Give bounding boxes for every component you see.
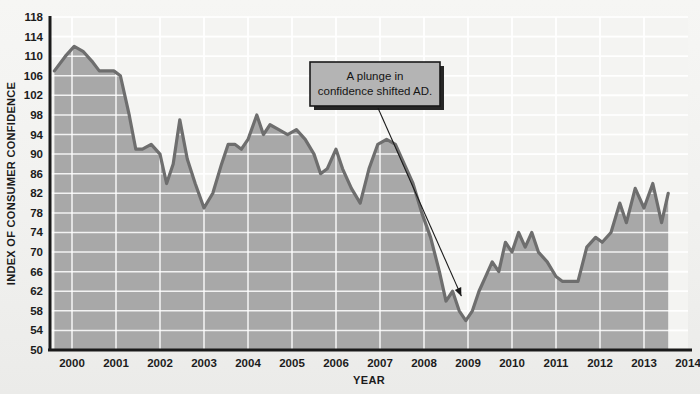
x-tick-label: 2007 (367, 357, 393, 369)
y-tick-label: 90 (30, 148, 43, 160)
x-tick-label: 2011 (544, 357, 570, 369)
consumer-confidence-chart: 5054586266707478828690949810210611011411… (0, 0, 700, 394)
y-tick-label: 106 (24, 70, 43, 82)
annotation-box (310, 62, 440, 106)
y-tick-label: 70 (30, 246, 43, 258)
y-axis-title: INDEX OF CONSUMER CONFIDENCE (5, 82, 17, 285)
y-tick-label: 78 (30, 207, 43, 219)
y-tick-label: 54 (30, 324, 43, 336)
x-tick-label: 2008 (411, 357, 437, 369)
x-axis-title: YEAR (353, 374, 385, 386)
y-axis-ticks: 5054586266707478828690949810210611011411… (24, 11, 44, 356)
annotation-line-2: confidence shifted AD. (318, 85, 432, 97)
y-tick-label: 114 (24, 31, 43, 43)
x-tick-label: 2010 (499, 357, 525, 369)
y-tick-label: 98 (30, 109, 43, 121)
x-tick-label: 2001 (103, 357, 129, 369)
chart-container: 5054586266707478828690949810210611011411… (0, 0, 700, 394)
x-tick-label: 2012 (587, 357, 613, 369)
y-tick-label: 86 (30, 168, 43, 180)
x-tick-label: 2004 (235, 357, 261, 369)
y-tick-label: 118 (24, 11, 43, 23)
x-tick-label: 2002 (147, 357, 173, 369)
y-tick-label: 110 (24, 50, 43, 62)
x-tick-label: 2003 (191, 357, 217, 369)
x-tick-label: 2009 (455, 357, 481, 369)
y-tick-label: 102 (24, 89, 43, 101)
x-tick-label: 2013 (631, 357, 657, 369)
x-tick-label: 2014 (675, 357, 700, 369)
y-tick-label: 94 (30, 129, 43, 141)
y-tick-label: 74 (30, 226, 43, 238)
y-tick-label: 50 (30, 344, 43, 356)
y-tick-label: 58 (30, 305, 43, 317)
y-tick-label: 62 (30, 285, 43, 297)
x-tick-label: 2000 (59, 357, 85, 369)
x-axis-ticks: 2000200120022003200420052006200720082009… (59, 357, 700, 369)
x-tick-label: 2006 (323, 357, 349, 369)
annotation-line-1: A plunge in (347, 70, 404, 82)
y-tick-label: 82 (30, 187, 43, 199)
x-tick-label: 2005 (279, 357, 305, 369)
y-tick-label: 66 (30, 266, 43, 278)
